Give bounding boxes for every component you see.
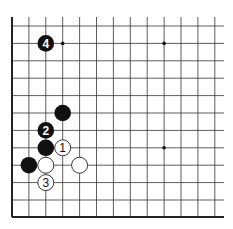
stone-label: 3 — [42, 176, 49, 190]
stone-label: 4 — [42, 37, 49, 51]
white-stone — [38, 157, 54, 173]
stone-label: 1 — [59, 141, 66, 155]
star-point — [162, 42, 166, 46]
star-point — [61, 42, 65, 46]
white-stone-1: 1 — [55, 140, 71, 156]
white-stone-3: 3 — [38, 175, 54, 191]
black-stone-4: 4 — [38, 35, 55, 52]
black-stone-2: 2 — [38, 122, 55, 139]
black-stone — [38, 140, 55, 157]
star-point — [162, 146, 166, 150]
black-stone — [21, 157, 38, 174]
stone-label: 2 — [42, 124, 49, 138]
black-stone — [54, 105, 71, 122]
white-stone — [72, 157, 88, 173]
go-board: 4213 — [0, 0, 233, 229]
